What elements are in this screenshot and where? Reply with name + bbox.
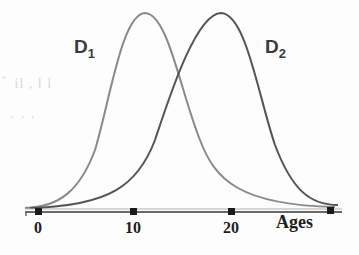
curve-label-d1: D1 xyxy=(74,36,95,61)
tick-marker-30 xyxy=(327,207,334,214)
tick-marker-10 xyxy=(130,208,137,215)
curve-label-d2: D2 xyxy=(265,36,286,61)
diagram-canvas: ﾞ il , l l · · · D1 D2 0 10 20 Ages xyxy=(0,0,359,255)
x-tick-label-10: 10 xyxy=(125,219,141,237)
tick-marker-0 xyxy=(35,208,42,215)
tick-marker-20 xyxy=(228,208,235,215)
curve-d1 xyxy=(25,13,335,208)
x-tick-label-0: 0 xyxy=(34,219,42,237)
x-tick-label-20: 20 xyxy=(223,219,239,237)
x-axis-title: Ages xyxy=(276,212,313,233)
